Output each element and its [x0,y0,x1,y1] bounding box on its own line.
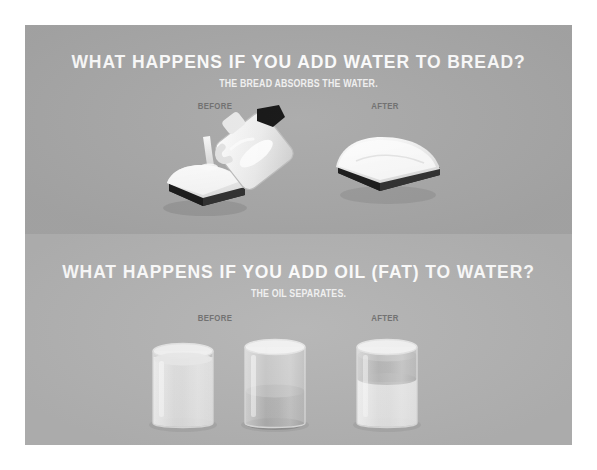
illustration-swollen-bread-slice [320,125,460,215]
illustration-water-jug-pouring-onto-bread [145,103,325,223]
panel-subtitle-oil: THE OIL SEPARATES. [69,287,528,299]
panel-subtitle-bread: THE BREAD ABSORBS THE WATER. [69,77,528,89]
infographic-canvas: WHAT HAPPENS IF YOU ADD WATER TO BREAD? … [25,25,572,445]
illustration-beakers-water-and-oil [135,329,335,439]
stage-label-before-oil: BEFORE [182,312,248,323]
stage-label-after-oil: AFTER [352,312,418,323]
stage-label-after-bread: AFTER [352,100,418,111]
panel-title-bread: WHAT HAPPENS IF YOU ADD WATER TO BREAD? [25,52,572,73]
illustration-beaker-oil-separated-on-water [335,329,465,439]
panel-title-oil: WHAT HAPPENS IF YOU ADD OIL (FAT) TO WAT… [25,262,572,283]
panel-bread: WHAT HAPPENS IF YOU ADD WATER TO BREAD? … [25,25,572,234]
panel-oil: WHAT HAPPENS IF YOU ADD OIL (FAT) TO WAT… [25,234,572,445]
